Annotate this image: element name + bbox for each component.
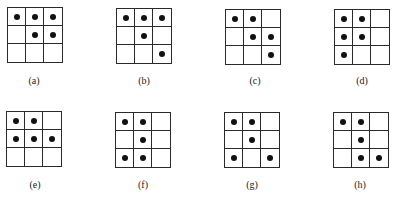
panel-label: (c) [249,75,260,87]
dot-icon [32,32,38,38]
grid-cell-r1-c2 [152,131,170,149]
dot-icon [340,119,346,125]
dot-icon [122,119,128,125]
grid-cell-r0-c0 [8,8,26,26]
dot-icon [159,15,165,21]
dot-icon [231,155,237,161]
grid-cell-r1-c1 [26,26,44,44]
dot-icon [141,33,147,39]
grid-cell-r2-c0 [225,149,243,167]
grid-h [333,112,389,168]
grid-cell-r0-c2 [371,10,389,28]
panel-label: (g) [246,179,258,191]
dot-icon [376,155,382,161]
grid-cell-r1-c0 [116,131,134,149]
grid-cell-r1-c1 [244,28,262,46]
grid-cell-r2-c2 [262,46,280,64]
grid-cell-r2-c1 [26,44,44,62]
grid-a [7,7,63,63]
grid-cell-r2-c1 [243,149,261,167]
panel-label: (d) [356,75,368,87]
grid-cell-r2-c0 [8,44,26,62]
grid-cell-r2-c1 [352,149,370,167]
dot-icon [341,52,347,58]
grid-cell-r2-c0 [7,148,25,166]
dot-icon [13,136,19,142]
dot-icon [231,119,237,125]
dot-icon [31,118,37,124]
grid-cell-r0-c2 [44,8,62,26]
grid-cell-r1-c2 [371,28,389,46]
grid-cell-r0-c1 [243,113,261,131]
grid-cell-r2-c0 [116,149,134,167]
grid-cell-r0-c1 [26,8,44,26]
grid-cell-r1-c2 [262,28,280,46]
grid-cell-r2-c0 [334,149,352,167]
dot-icon [141,15,147,21]
dot-icon [49,136,55,142]
dot-icon [50,32,56,38]
dot-icon [122,155,128,161]
dot-icon [13,118,19,124]
grid-cell-r0-c1 [134,113,152,131]
panel-label: (e) [29,179,40,191]
grid-cell-r1-c0 [7,130,25,148]
grid-cell-r1-c1 [25,130,43,148]
dot-icon [358,119,364,125]
dot-icon [123,15,129,21]
grid-cell-r0-c2 [261,113,279,131]
dot-icon [31,136,37,142]
grid-b [116,8,172,64]
panel-label: (a) [28,75,39,87]
dot-icon [32,14,38,20]
grid-c [225,9,281,65]
grid-cell-r1-c0 [225,131,243,149]
dot-icon [250,34,256,40]
grid-cell-r0-c0 [226,10,244,28]
dot-icon [140,137,146,143]
grid-cell-r2-c1 [134,149,152,167]
grid-cell-r1-c2 [43,130,61,148]
dot-icon [267,155,273,161]
grid-cell-r0-c1 [25,112,43,130]
grid-cell-r2-c0 [117,45,135,63]
grid-cell-r0-c1 [244,10,262,28]
grid-cell-r1-c0 [8,26,26,44]
grid-cell-r1-c1 [134,131,152,149]
dot-icon [140,119,146,125]
dot-icon [249,119,255,125]
grid-cell-r1-c2 [44,26,62,44]
grid-cell-r1-c0 [334,131,352,149]
grid-cell-r2-c2 [370,149,388,167]
panel-label: (h) [354,179,366,191]
grid-cell-r2-c0 [226,46,244,64]
grid-cell-r1-c1 [243,131,261,149]
grid-cell-r1-c1 [353,28,371,46]
grid-e [6,111,62,167]
grid-cell-r1-c2 [261,131,279,149]
dot-icon [14,14,20,20]
grid-cell-r2-c2 [44,44,62,62]
grid-cell-r1-c0 [335,28,353,46]
grid-cell-r2-c1 [244,46,262,64]
grid-cell-r1-c0 [226,28,244,46]
grid-cell-r2-c2 [261,149,279,167]
grid-f [115,112,171,168]
grid-cell-r0-c1 [135,9,153,27]
grid-cell-r0-c2 [152,113,170,131]
panel-label: (f) [138,179,148,191]
grid-cell-r0-c0 [334,113,352,131]
grid-cell-r0-c1 [353,10,371,28]
grid-cell-r1-c0 [117,27,135,45]
grid-cell-r0-c2 [43,112,61,130]
panel-label: (b) [138,75,150,87]
dot-icon [159,51,165,57]
dot-icon [341,34,347,40]
grid-d [334,9,390,65]
grid-cell-r2-c0 [335,46,353,64]
grid-cell-r2-c1 [25,148,43,166]
grid-cell-r2-c2 [43,148,61,166]
grid-cell-r0-c2 [153,9,171,27]
grid-cell-r2-c2 [152,149,170,167]
grid-cell-r0-c1 [352,113,370,131]
